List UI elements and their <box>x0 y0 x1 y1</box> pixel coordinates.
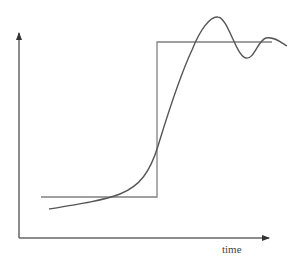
step-response-diagram: time <box>0 0 303 270</box>
x-axis-label: time <box>222 243 242 255</box>
step-input-line <box>41 42 272 197</box>
response-curve <box>49 17 287 209</box>
